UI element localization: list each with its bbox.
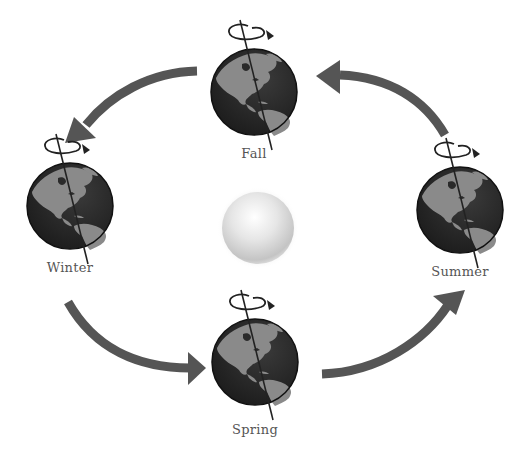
label-summer: Summer bbox=[431, 264, 489, 279]
label-fall: Fall bbox=[241, 146, 266, 161]
arrow-fall-to-winter bbox=[65, 71, 197, 143]
arrow-summer-to-fall bbox=[316, 60, 445, 135]
earth-summer bbox=[417, 138, 503, 268]
arrow-spring-to-summer bbox=[322, 290, 465, 374]
earth-spring bbox=[212, 290, 298, 420]
label-spring: Spring bbox=[232, 422, 278, 437]
arrow-winter-to-spring bbox=[68, 302, 206, 385]
earth-fall bbox=[211, 20, 297, 150]
label-winter: Winter bbox=[47, 260, 94, 275]
diagram-canvas bbox=[0, 0, 529, 456]
sun bbox=[217, 187, 299, 269]
earth-winter bbox=[27, 134, 113, 264]
seasons-diagram: Fall Winter Summer Spring bbox=[0, 0, 529, 456]
